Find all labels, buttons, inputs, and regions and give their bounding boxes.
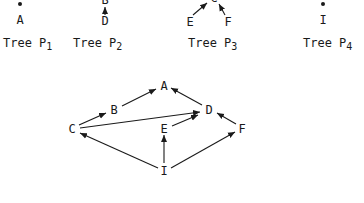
edge-e-d [172, 115, 198, 126]
graph-node-f: F [238, 123, 245, 135]
edges-layer [0, 0, 364, 203]
edge-f-d [217, 113, 236, 124]
graph-node-d: D [205, 104, 212, 116]
edge-i-f [171, 132, 235, 168]
edge-d-a [171, 88, 202, 105]
edge-c-b [79, 113, 106, 125]
graph-node-c: C [68, 123, 75, 135]
edge-i-c [80, 133, 158, 168]
graph-node-i: I [160, 165, 167, 177]
graph-node-e: E [160, 123, 167, 135]
edge-c-d [80, 112, 200, 128]
graph-node-a: A [160, 80, 167, 92]
edge-p3-f-c [219, 4, 225, 15]
edge-b-a [122, 89, 156, 106]
edge-p3-e-c [193, 3, 207, 15]
graph-node-b: B [110, 104, 117, 116]
